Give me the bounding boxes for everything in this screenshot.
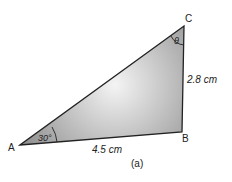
vertex-b-label: B [182,133,189,144]
angle-a-label: 30° [38,133,52,143]
side-ab-label: 4.5 cm [92,144,122,155]
vertex-a-label: A [8,142,15,153]
triangle-diagram: A B C 4.5 cm 2.8 cm 30° θ (a) [0,0,232,182]
side-bc-label: 2.8 cm [186,74,217,85]
figure-caption: (a) [131,158,143,169]
vertex-c-label: C [185,13,192,24]
triangle-abc [20,26,184,145]
angle-c-label: θ [174,36,179,46]
